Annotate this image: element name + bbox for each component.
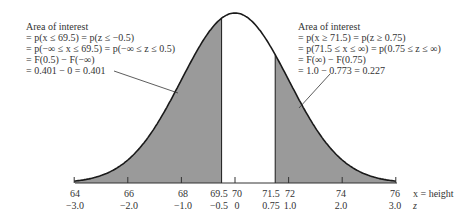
z-tick-label: −1.0 [174, 200, 192, 211]
left-leader-line [114, 71, 178, 93]
left-annotation-title: Area of interest [26, 21, 88, 32]
x-tick-label: 76 [390, 188, 400, 199]
z-tick-label: 0 [235, 200, 240, 211]
x-tick-label: 70 [232, 188, 242, 199]
x-tick-label: 66 [124, 188, 134, 199]
x-tick-label: 68 [178, 188, 188, 199]
normal-distribution-diagram: Area of interest = p(x ≤ 69.5) = p(z ≤ −… [0, 0, 476, 217]
right-annotation-line-4: = 1.0 − 0.773 = 0.227 [298, 65, 385, 76]
z-axis-label: z [412, 200, 417, 211]
z-tick-label: −2.0 [120, 200, 138, 211]
x-tick-label: 72 [285, 188, 295, 199]
x-tick-label: 64 [70, 188, 80, 199]
x-tick-labels: 64 66 68 69.5 70 71.5 72 74 76 x = heigh… [70, 188, 454, 199]
z-tick-label: 0.75 [262, 200, 280, 211]
z-tick-label: −3.0 [66, 200, 84, 211]
right-annotation-title: Area of interest [298, 21, 360, 32]
z-tick-label: 2.0 [335, 200, 348, 211]
left-annotation: Area of interest = p(x ≤ 69.5) = p(z ≤ −… [26, 21, 175, 76]
x-tick-label: 71.5 [262, 188, 280, 199]
x-tick-label: 74 [336, 188, 346, 199]
x-tick-label: 69.5 [210, 188, 228, 199]
z-tick-label: −0.5 [210, 200, 228, 211]
right-leader-line [299, 74, 330, 108]
z-tick-labels: −3.0 −2.0 −1.0 −0.5 0 0.75 1.0 2.0 3.0 z [66, 200, 417, 211]
z-tick-label: 1.0 [284, 200, 297, 211]
x-axis-label: x = height [413, 188, 454, 199]
left-annotation-line-4: = 0.401 − 0 = 0.401 [26, 65, 105, 76]
z-tick-label: 3.0 [389, 200, 402, 211]
right-annotation: Area of interest = p(x ≥ 71.5) = p(z ≥ 0… [298, 21, 441, 76]
